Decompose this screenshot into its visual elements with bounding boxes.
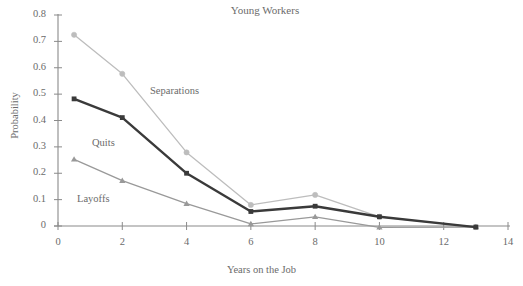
series-line-quits (74, 99, 476, 227)
data-point-square (72, 96, 77, 101)
data-point-circle (184, 150, 189, 155)
data-point-circle (313, 192, 318, 197)
series-label-separations: Separations (150, 85, 199, 96)
data-point-square (184, 171, 189, 176)
series-line-layoffs (74, 159, 476, 227)
x-tick-label: 0 (43, 236, 73, 247)
series-line-separations (74, 35, 476, 227)
y-tick-label: 0.7 (16, 34, 46, 45)
x-tick-label: 6 (236, 236, 266, 247)
y-tick-label: 0.8 (16, 8, 46, 19)
y-tick-label: 0.5 (16, 87, 46, 98)
data-point-circle (248, 202, 253, 207)
data-point-circle (120, 71, 125, 76)
data-point-square (473, 225, 478, 230)
data-point-square (120, 115, 125, 120)
y-tick-label: 0 (16, 219, 46, 230)
data-point-square (313, 204, 318, 209)
data-point-triangle (71, 156, 77, 161)
chart-figure: Young Workers Probability Years on the J… (0, 0, 523, 286)
x-tick-label: 8 (300, 236, 330, 247)
series-label-quits: Quits (92, 137, 115, 148)
x-tick-label: 14 (493, 236, 523, 247)
x-tick-label: 2 (107, 236, 137, 247)
x-tick-label: 12 (429, 236, 459, 247)
y-tick-label: 0.1 (16, 193, 46, 204)
series-quits (72, 96, 479, 229)
y-tick-label: 0.2 (16, 166, 46, 177)
series-layoffs (71, 156, 479, 229)
data-point-square (377, 214, 382, 219)
data-point-square (248, 209, 253, 214)
y-tick-label: 0.6 (16, 61, 46, 72)
series-label-layoffs: Layoffs (77, 193, 109, 204)
y-tick-label: 0.3 (16, 140, 46, 151)
y-tick-label: 0.4 (16, 114, 46, 125)
x-tick-label: 4 (172, 236, 202, 247)
series-separations (71, 32, 478, 229)
x-tick-label: 10 (364, 236, 394, 247)
data-point-circle (71, 32, 76, 37)
data-point-triangle (312, 214, 318, 219)
